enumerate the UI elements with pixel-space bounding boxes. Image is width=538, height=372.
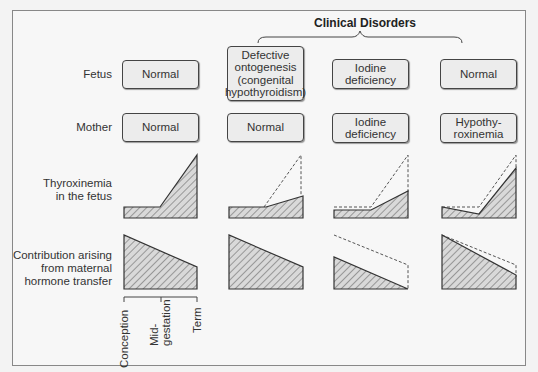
axis-label-conception: Conception bbox=[118, 310, 130, 368]
row-label-thyroxinemia: Thyroxinemia in the fetus bbox=[20, 177, 112, 203]
fetus-box-normal: Normal bbox=[122, 60, 199, 89]
contribution-chart-iodine bbox=[334, 257, 408, 289]
row-label-mother: Mother bbox=[20, 121, 112, 134]
contribution-chart-defective bbox=[229, 235, 303, 289]
mother-box-hypothyroxinemia: Hypothy- roxinemia bbox=[440, 113, 517, 143]
mother-box-normal-col2: Normal bbox=[227, 113, 304, 142]
mother-box-normal: Normal bbox=[122, 113, 199, 142]
row-label-fetus: Fetus bbox=[20, 68, 112, 81]
axis-label-mid-gestation: Mid- gestation bbox=[148, 299, 172, 346]
thyroxinemia-chart-defective bbox=[229, 196, 303, 218]
thyroxinemia-chart-normal bbox=[124, 155, 197, 218]
thyroxinemia-chart-iodine bbox=[334, 191, 408, 218]
fetus-box-normal-col4: Normal bbox=[440, 59, 517, 89]
fetus-box-iodine-deficiency: Iodine deficiency bbox=[332, 59, 409, 89]
contribution-chart-normal bbox=[124, 235, 197, 289]
row-label-contribution: Contribution arising from maternal hormo… bbox=[12, 249, 112, 288]
contribution-chart-hypothyroxinemia bbox=[442, 235, 516, 289]
brace-icon bbox=[258, 31, 462, 43]
axis-label-term: Term bbox=[191, 307, 203, 333]
mother-box-iodine-deficiency: Iodine deficiency bbox=[332, 113, 409, 143]
thyroxinemia-chart-hypothyroxinemia bbox=[442, 168, 516, 218]
fetus-box-defective-ontogenesis: Defective ontogenesis (congenital hypoth… bbox=[227, 46, 304, 101]
